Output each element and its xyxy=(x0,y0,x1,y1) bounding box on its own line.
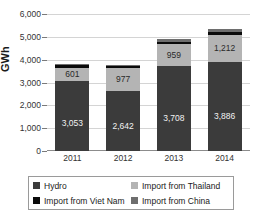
bar-column[interactable]: 1,2123,886 xyxy=(208,14,242,151)
x-tick-label: 2012 xyxy=(106,153,140,167)
legend-item[interactable]: Hydro xyxy=(33,181,131,191)
bar-value-label: 1,212 xyxy=(208,44,242,53)
bar-value-label: 3,708 xyxy=(157,114,191,123)
bar-segment[interactable]: 959 xyxy=(157,44,191,66)
bar-segment[interactable]: 3,708 xyxy=(157,66,191,151)
stacked-bar-chart: GWh 6013,0539772,6429593,7081,2123,886 6… xyxy=(0,0,264,219)
bar-value-label: 977 xyxy=(106,75,140,84)
x-tick-label: 2014 xyxy=(208,153,242,167)
legend-swatch-icon xyxy=(33,182,40,189)
legend-label: Import from China xyxy=(142,196,210,206)
legend-swatch-icon xyxy=(131,197,138,204)
bar-segment[interactable]: 1,212 xyxy=(208,35,242,63)
bar-value-label: 3,886 xyxy=(208,112,242,121)
y-tick-label: 2,000 xyxy=(7,100,41,110)
legend-item[interactable]: Import from China xyxy=(131,196,239,206)
x-tick-label: 2013 xyxy=(157,153,191,167)
x-axis-tick-labels: 2011201220132014 xyxy=(47,153,250,167)
y-tick-mark xyxy=(42,151,47,152)
legend-label: Import from Thailand xyxy=(142,181,220,191)
bar-segment[interactable]: 2,642 xyxy=(106,91,140,151)
bar-segment[interactable]: 3,886 xyxy=(208,62,242,151)
bar-segment[interactable]: 3,053 xyxy=(55,81,89,151)
bar-series-container: 6013,0539772,6429593,7081,2123,886 xyxy=(47,14,250,151)
bar-column[interactable]: 9772,642 xyxy=(106,14,140,151)
legend-label: Hydro xyxy=(44,181,67,191)
bar-column[interactable]: 6013,053 xyxy=(55,14,89,151)
y-tick-label: 6,000 xyxy=(7,9,41,19)
legend-swatch-icon xyxy=(131,182,138,189)
legend-swatch-icon xyxy=(33,197,40,204)
bar-segment[interactable]: 601 xyxy=(55,68,89,82)
legend-item[interactable]: Import from Viet Nam xyxy=(33,196,131,206)
bar-value-label: 959 xyxy=(157,51,191,60)
bar-value-label: 601 xyxy=(55,70,89,79)
y-tick-label: 4,000 xyxy=(7,55,41,65)
plot-area: 6013,0539772,6429593,7081,2123,886 xyxy=(47,14,250,151)
legend-item[interactable]: Import from Thailand xyxy=(131,181,239,191)
chart-legend: HydroImport from ThailandImport from Vie… xyxy=(28,176,234,210)
bar-value-label: 3,053 xyxy=(55,119,89,128)
y-tick-label: 0 xyxy=(7,146,41,156)
y-tick-label: 5,000 xyxy=(7,32,41,42)
y-tick-label: 3,000 xyxy=(7,78,41,88)
bar-value-label: 2,642 xyxy=(106,122,140,131)
bar-segment[interactable]: 977 xyxy=(106,68,140,90)
x-tick-label: 2011 xyxy=(55,153,89,167)
legend-label: Import from Viet Nam xyxy=(44,196,125,206)
y-tick-label: 1,000 xyxy=(7,123,41,133)
bar-column[interactable]: 9593,708 xyxy=(157,14,191,151)
